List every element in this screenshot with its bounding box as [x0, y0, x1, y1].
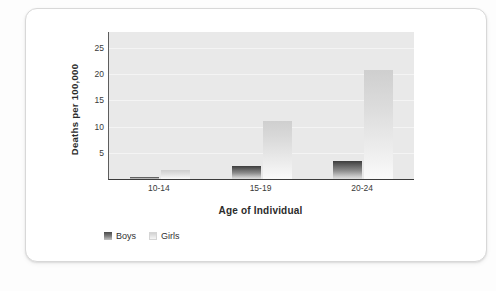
bar-chart-figure: Deaths per 100,000 252015105 10-1415-192…: [26, 9, 488, 263]
x-axis-ticks: 10-1415-1920-24: [108, 183, 413, 197]
y-tick-label-20: 20: [95, 69, 104, 79]
bar-girls-10-14: [161, 170, 190, 179]
x-tick-label-10-14: 10-14: [148, 183, 170, 193]
legend-item-boys[interactable]: Boys: [104, 231, 136, 241]
legend-label-girls: Girls: [161, 231, 180, 241]
bar-boys-15-19: [232, 166, 261, 179]
x-tick-label-15-19: 15-19: [250, 183, 272, 193]
y-tick-label-5: 5: [99, 148, 104, 158]
gridline-25: [109, 48, 414, 49]
y-tick-label-15: 15: [95, 95, 104, 105]
y-axis-ticks: 252015105: [84, 32, 108, 179]
bar-girls-20-24: [364, 70, 393, 179]
x-tick-label-20-24: 20-24: [351, 183, 373, 193]
legend-swatch-boys-icon: [104, 232, 112, 240]
y-axis-title: Deaths per 100,000: [69, 40, 80, 180]
chart-card: Deaths per 100,000 252015105 10-1415-192…: [25, 8, 487, 262]
legend-item-girls[interactable]: Girls: [149, 231, 180, 241]
x-axis-title: Age of Individual: [108, 205, 413, 216]
legend-label-boys: Boys: [116, 231, 136, 241]
plot-area: [108, 32, 414, 180]
y-tick-label-10: 10: [95, 122, 104, 132]
bar-girls-15-19: [263, 121, 292, 179]
bar-boys-10-14: [130, 177, 159, 179]
chart-legend: BoysGirls: [104, 231, 180, 241]
legend-swatch-girls-icon: [149, 232, 157, 240]
y-tick-label-25: 25: [95, 43, 104, 53]
chart-screenshot: Deaths per 100,000 252015105 10-1415-192…: [0, 0, 496, 291]
bar-boys-20-24: [333, 161, 362, 179]
